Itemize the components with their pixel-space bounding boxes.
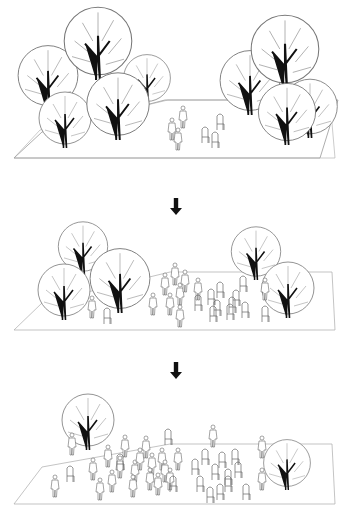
stage-1 (14, 7, 338, 158)
stage-3 (14, 394, 335, 504)
tree-icon (62, 394, 310, 490)
diagram-canvas (0, 0, 351, 518)
person-icon (168, 106, 187, 150)
arrow-down-icon (170, 198, 182, 215)
arrow-down-icon (170, 362, 182, 379)
stage-2 (14, 222, 335, 330)
tree-icon (18, 7, 337, 148)
chair-icon (202, 114, 224, 148)
